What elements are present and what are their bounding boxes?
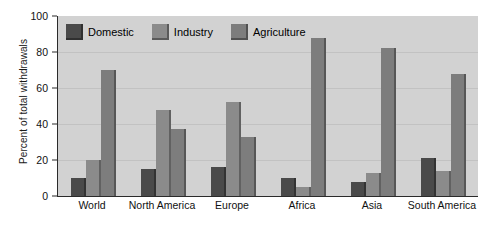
bar-industry-north-america[interactable] bbox=[156, 110, 171, 196]
bar-agriculture-south-america[interactable] bbox=[451, 74, 466, 196]
bar-group bbox=[338, 16, 408, 196]
x-tick-label: Europe bbox=[197, 199, 267, 211]
y-tick-label: 100 bbox=[22, 10, 48, 22]
y-tick-mark bbox=[52, 52, 57, 53]
bar-domestic-asia[interactable] bbox=[351, 182, 366, 196]
y-tick-label: 80 bbox=[22, 46, 48, 58]
bar-industry-world[interactable] bbox=[86, 160, 101, 196]
legend-swatch-icon bbox=[66, 24, 83, 40]
x-tick-label: South America bbox=[407, 199, 477, 211]
x-axis-tick-labels: WorldNorth AmericaEuropeAfricaAsiaSouth … bbox=[57, 199, 477, 211]
bar-industry-europe[interactable] bbox=[226, 102, 241, 196]
legend-entry[interactable]: Industry bbox=[152, 24, 213, 40]
y-tick-mark bbox=[52, 196, 57, 197]
gridline bbox=[58, 160, 478, 161]
gridline bbox=[58, 52, 478, 53]
y-tick-mark bbox=[52, 160, 57, 161]
bar-agriculture-world[interactable] bbox=[101, 70, 116, 196]
bar-domestic-world[interactable] bbox=[71, 178, 86, 196]
legend-label: Domestic bbox=[88, 26, 134, 38]
bar-industry-asia[interactable] bbox=[366, 173, 381, 196]
legend-entry[interactable]: Agriculture bbox=[231, 24, 306, 40]
gridline bbox=[58, 124, 478, 125]
x-tick-label: North America bbox=[127, 199, 197, 211]
bar-domestic-north-america[interactable] bbox=[141, 169, 156, 196]
legend-entry[interactable]: Domestic bbox=[66, 24, 134, 40]
bar-group bbox=[408, 16, 478, 196]
y-tick-mark bbox=[52, 88, 57, 89]
legend-swatch-icon bbox=[152, 24, 169, 40]
gridline bbox=[58, 88, 478, 89]
y-tick-label: 40 bbox=[22, 118, 48, 130]
bar-industry-south-america[interactable] bbox=[436, 171, 451, 196]
bar-agriculture-asia[interactable] bbox=[381, 48, 396, 196]
bar-industry-africa[interactable] bbox=[296, 187, 311, 196]
bar-agriculture-north-america[interactable] bbox=[171, 129, 186, 196]
bar-agriculture-europe[interactable] bbox=[241, 137, 256, 196]
chart-figure: Percent of total withdrawals 02040608010… bbox=[0, 0, 495, 231]
y-axis-tick-labels: 020406080100 bbox=[20, 0, 48, 231]
legend-label: Industry bbox=[174, 26, 213, 38]
bar-set bbox=[338, 16, 408, 196]
bar-set bbox=[408, 16, 478, 196]
legend-swatch-icon bbox=[231, 24, 248, 40]
plot-area: DomesticIndustryAgriculture bbox=[57, 16, 478, 197]
x-tick-label: Africa bbox=[267, 199, 337, 211]
y-tick-mark bbox=[52, 124, 57, 125]
bar-domestic-south-america[interactable] bbox=[421, 158, 436, 196]
bar-domestic-europe[interactable] bbox=[211, 167, 226, 196]
bar-agriculture-africa[interactable] bbox=[311, 38, 326, 196]
x-tick-label: World bbox=[57, 199, 127, 211]
y-tick-label: 60 bbox=[22, 82, 48, 94]
legend-label: Agriculture bbox=[253, 26, 306, 38]
x-tick-label: Asia bbox=[337, 199, 407, 211]
y-tick-label: 20 bbox=[22, 154, 48, 166]
chart-legend: DomesticIndustryAgriculture bbox=[60, 18, 318, 46]
bar-domestic-africa[interactable] bbox=[281, 178, 296, 196]
y-tick-label: 0 bbox=[22, 190, 48, 202]
y-tick-mark bbox=[52, 16, 57, 17]
